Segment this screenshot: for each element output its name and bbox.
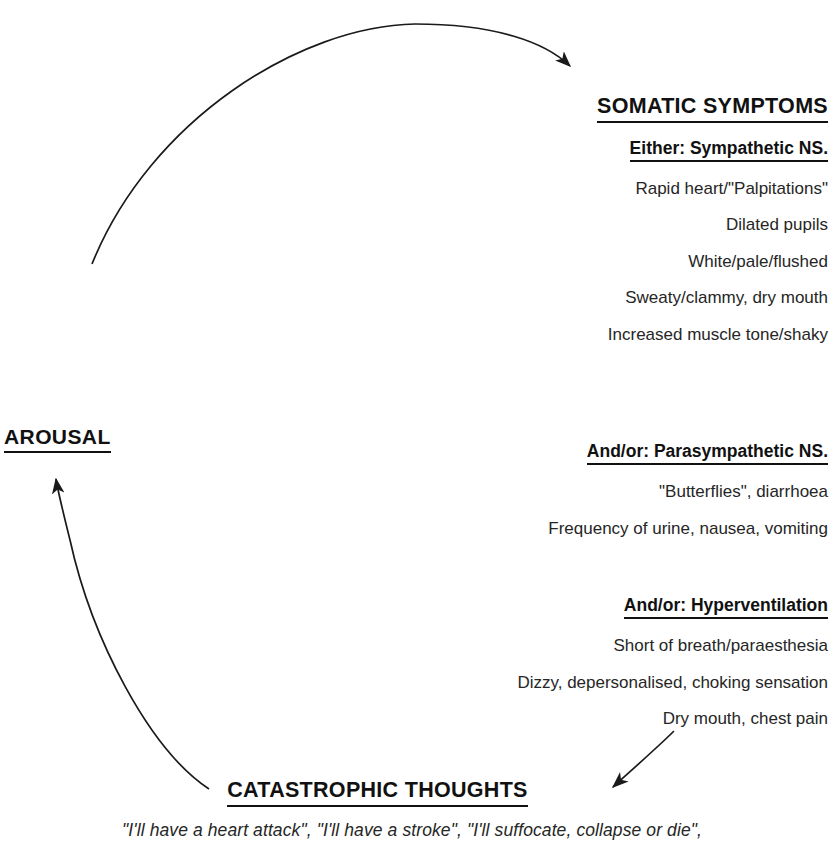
somatic-heading-wrap: SOMATIC SYMPTOMS [398,94,828,123]
symptom-line: White/pale/flushed [398,252,828,272]
subheading-parasympathetic: And/or: Parasympathetic NS. [587,441,828,465]
symptom-line: Dilated pupils [398,215,828,235]
symptom-group-parasympathetic: And/or: Parasympathetic NS. "Butterflies… [368,441,828,538]
subheading-sympathetic: Either: Sympathetic NS. [630,138,828,162]
subheading-hyperventilation: And/or: Hyperventilation [624,595,828,619]
node-somatic-symptoms: SOMATIC SYMPTOMS Either: Sympathetic NS.… [398,94,828,344]
hyperventilation-subheading-wrap: And/or: Hyperventilation [368,595,828,619]
catastrophic-heading-wrap: CATASTROPHIC THOUGHTS [0,778,830,807]
catastrophic-thoughts-heading: CATASTROPHIC THOUGHTS [227,778,528,807]
arrow-catastrophic-to-arousal [56,479,209,789]
symptom-line: Dizzy, depersonalised, choking sensation [368,673,828,693]
symptom-line: Dry mouth, chest pain [368,709,828,729]
parasympathetic-subheading-wrap: And/or: Parasympathetic NS. [368,441,828,465]
symptom-line: "Butterflies", diarrhoea [368,482,828,502]
symptom-line: Short of breath/paraesthesia [368,636,828,656]
symptom-line: Sweaty/clammy, dry mouth [398,288,828,308]
sympathetic-subheading-wrap: Either: Sympathetic NS. [398,138,828,162]
symptom-line: Increased muscle tone/shaky [398,325,828,345]
catastrophic-thoughts-examples: "I'll have a heart attack", "I'll have a… [0,820,830,841]
symptom-group-hyperventilation: And/or: Hyperventilation Short of breath… [368,595,828,729]
symptom-group-sympathetic: Either: Sympathetic NS. Rapid heart/"Pal… [398,138,828,345]
symptom-line: Frequency of urine, nausea, vomiting [368,519,828,539]
node-arousal: AROUSAL [4,426,111,453]
anxiety-cycle-diagram: AROUSAL SOMATIC SYMPTOMS Either: Sympath… [0,0,830,862]
somatic-symptoms-heading: SOMATIC SYMPTOMS [597,94,828,123]
node-catastrophic-thoughts: CATASTROPHIC THOUGHTS "I'll have a heart… [0,778,830,841]
symptom-line: Rapid heart/"Palpitations" [398,179,828,199]
